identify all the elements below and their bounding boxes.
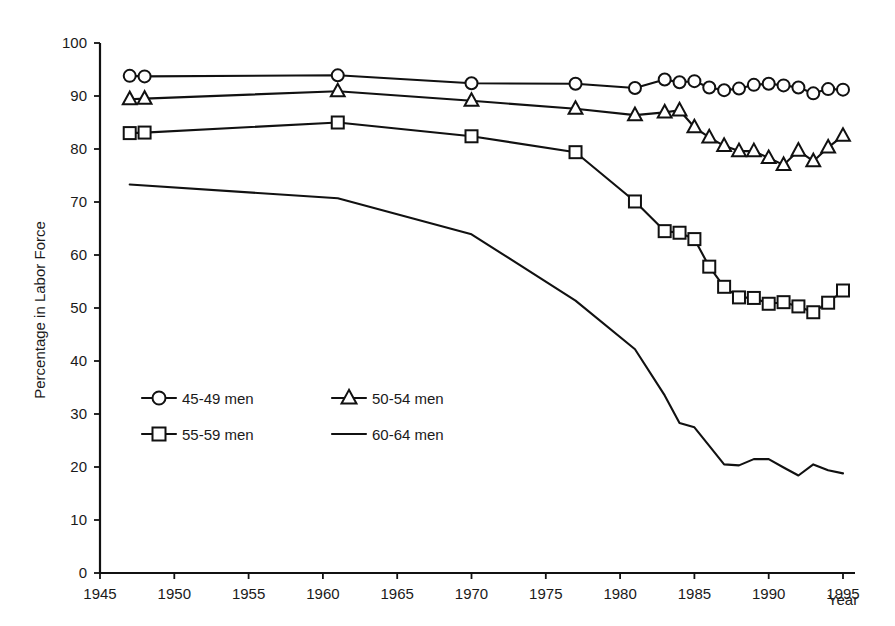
data-point-circle (837, 84, 849, 96)
data-point-square (674, 227, 686, 239)
x-tick-label: 1955 (232, 585, 265, 602)
data-point-square (718, 281, 730, 293)
data-point-circle (792, 82, 804, 94)
legend-item-45-49-men[interactable]: 45-49 men (142, 390, 254, 407)
series-50-54-men (123, 84, 850, 170)
data-point-triangle (673, 103, 687, 116)
y-tick-label: 20 (70, 458, 87, 475)
y-tick-label: 60 (70, 246, 87, 263)
data-point-circle (807, 87, 819, 99)
legend-label: 55-59 men (182, 426, 254, 443)
data-point-square (570, 146, 582, 158)
data-point-circle (659, 74, 671, 86)
data-point-circle (748, 79, 760, 91)
x-tick-label: 1945 (83, 585, 116, 602)
data-point-triangle (747, 144, 761, 157)
data-point-square (837, 285, 849, 297)
data-point-circle (466, 77, 478, 89)
data-point-square (124, 127, 136, 139)
data-point-circle (629, 82, 641, 94)
data-point-square (763, 298, 775, 310)
data-point-circle (153, 392, 166, 405)
data-point-square (139, 127, 151, 139)
x-axis-title: Year (828, 591, 858, 608)
tick-label-group: 1009080706050403020100194519501955196019… (62, 34, 860, 602)
x-tick-label: 1965 (381, 585, 414, 602)
data-point-square (466, 130, 478, 142)
x-tick-label: 1970 (455, 585, 488, 602)
legend-label: 60-64 men (372, 426, 444, 443)
legend-item-60-64-men[interactable]: 60-64 men (332, 426, 444, 443)
data-point-triangle (702, 130, 716, 143)
legend-item-55-59-men[interactable]: 55-59 men (142, 426, 254, 443)
data-point-square (778, 296, 790, 308)
y-tick-label: 40 (70, 352, 87, 369)
data-point-square (703, 261, 715, 273)
data-point-square (822, 297, 834, 309)
legend-label: 45-49 men (182, 390, 254, 407)
data-point-square (748, 292, 760, 304)
y-tick-label: 50 (70, 299, 87, 316)
data-series-group (123, 69, 850, 475)
data-point-circle (703, 82, 715, 94)
chart-legend: 45-49 men50-54 men55-59 men60-64 men (142, 390, 444, 443)
data-point-triangle (717, 138, 731, 151)
data-point-square (733, 291, 745, 303)
y-axis-title: Percentage in Labor Force (31, 221, 48, 399)
data-point-circle (733, 83, 745, 95)
x-tick-label: 1990 (752, 585, 785, 602)
y-tick-label: 70 (70, 193, 87, 210)
data-point-square (153, 428, 166, 441)
y-tick-label: 30 (70, 405, 87, 422)
data-point-circle (778, 79, 790, 91)
y-tick-label: 90 (70, 87, 87, 104)
x-tick-label: 1985 (678, 585, 711, 602)
x-tick-label: 1960 (306, 585, 339, 602)
data-point-square (629, 195, 641, 207)
axes-group (94, 43, 855, 579)
data-point-circle (718, 84, 730, 96)
data-point-circle (332, 69, 344, 81)
data-point-square (688, 233, 700, 245)
x-tick-label: 1975 (529, 585, 562, 602)
data-point-triangle (342, 390, 357, 404)
axis-lines (100, 43, 855, 573)
y-tick-label: 80 (70, 140, 87, 157)
x-tick-label: 1950 (158, 585, 191, 602)
legend-item-50-54-men[interactable]: 50-54 men (332, 390, 444, 407)
y-tick-label: 100 (62, 34, 87, 51)
data-point-circle (124, 70, 136, 82)
data-point-circle (139, 70, 151, 82)
y-tick-label: 10 (70, 511, 87, 528)
data-point-circle (688, 75, 700, 87)
data-point-square (332, 117, 344, 129)
data-point-square (807, 306, 819, 318)
data-point-triangle (836, 128, 850, 141)
data-point-circle (763, 78, 775, 90)
data-point-square (659, 225, 671, 237)
data-point-triangle (821, 140, 835, 153)
x-tick-label: 1980 (603, 585, 636, 602)
data-point-square (792, 300, 804, 312)
line-chart-canvas: 1009080706050403020100194519501955196019… (0, 0, 895, 626)
data-point-circle (674, 76, 686, 88)
data-point-circle (570, 78, 582, 90)
chart-figure: 1009080706050403020100194519501955196019… (0, 0, 895, 626)
legend-label: 50-54 men (372, 390, 444, 407)
y-tick-label: 0 (79, 564, 87, 581)
data-point-triangle (792, 143, 806, 156)
data-point-circle (822, 83, 834, 95)
data-point-triangle (331, 84, 345, 97)
